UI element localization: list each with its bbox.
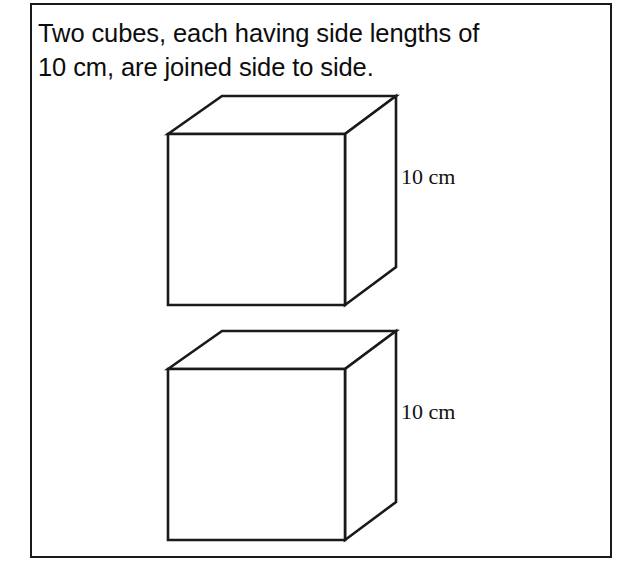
figure-root: Two cubes, each having side lengths of 1… <box>0 0 628 573</box>
cube-top-front-face <box>168 134 345 305</box>
dimension-label-cube-top: 10 cm <box>401 166 455 188</box>
cube-top <box>168 96 396 305</box>
cube-top-right-face <box>345 96 396 305</box>
cube-bottom-front-face <box>168 369 345 540</box>
dimension-label-cube-bottom: 10 cm <box>401 401 455 423</box>
cube-bottom-right-face <box>345 331 396 540</box>
cube-diagram <box>0 0 628 573</box>
cube-bottom <box>168 331 396 540</box>
